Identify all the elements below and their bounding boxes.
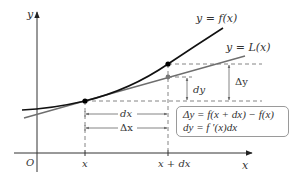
point-L-x-plus-dx (166, 75, 171, 80)
delta-y-label: Δy (235, 76, 248, 87)
formula-delta-y: Δy = f(x + dx) − f(x) (183, 108, 288, 121)
formula-box: Δy = f(x + dx) − f(x) dy = f ′(x)dx (176, 106, 289, 137)
L-line-label: y = L(x) (225, 41, 271, 54)
differential-diagram: y x O y = f(x) y = L(x) x x + dx dx Δx d… (0, 0, 294, 179)
dx-label: dx (120, 108, 132, 119)
x-axis-label: x (242, 159, 249, 172)
point-f-x-plus-dx (165, 61, 170, 66)
point-x-fx (82, 98, 87, 103)
origin-label: O (26, 157, 34, 168)
tick-label-x: x (82, 158, 88, 169)
tick-label-x-plus-dx: x + dx (158, 158, 191, 169)
delta-x-label: Δx (120, 122, 133, 133)
dy-label: dy (193, 84, 205, 95)
y-axis-label: y (26, 8, 34, 21)
curve-f (22, 28, 223, 110)
formula-dy: dy = f ′(x)dx (183, 121, 288, 134)
f-curve-label: y = f(x) (195, 12, 237, 25)
